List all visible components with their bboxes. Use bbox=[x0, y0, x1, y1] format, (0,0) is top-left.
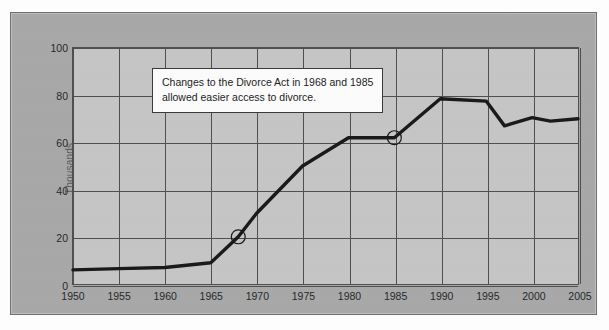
x-tick-label: 1995 bbox=[476, 290, 499, 302]
x-tick-label: 1955 bbox=[107, 290, 130, 302]
x-tick-label: 1990 bbox=[430, 290, 453, 302]
divorce-act-annotation: Changes to the Divorce Act in 1968 and 1… bbox=[152, 68, 383, 113]
x-tick-label: 1975 bbox=[292, 290, 315, 302]
chart-screenshot: Thousands 020406080100 19501955196019651… bbox=[0, 0, 609, 330]
chart-panel: Thousands 020406080100 19501955196019651… bbox=[10, 12, 597, 315]
annotation-line-1: Changes to the Divorce Act in 1968 and 1… bbox=[162, 75, 373, 90]
x-tick-label: 1970 bbox=[246, 290, 269, 302]
y-tick-label: 60 bbox=[56, 137, 68, 149]
x-tick-label: 2000 bbox=[522, 290, 545, 302]
gridline-vertical bbox=[580, 48, 581, 284]
y-tick-label: 80 bbox=[56, 90, 68, 102]
x-tick-label: 1985 bbox=[384, 290, 407, 302]
x-tick-label: 1965 bbox=[200, 290, 223, 302]
y-tick-label: 40 bbox=[56, 185, 68, 197]
x-tick-label: 1960 bbox=[153, 290, 176, 302]
x-tick-label: 2005 bbox=[568, 290, 591, 302]
x-tick-label: 1980 bbox=[338, 290, 361, 302]
gridline-horizontal bbox=[73, 286, 578, 287]
annotation-line-2: allowed easier access to divorce. bbox=[162, 90, 373, 105]
y-tick-label: 20 bbox=[56, 232, 68, 244]
x-tick-label: 1950 bbox=[61, 290, 84, 302]
y-tick-label: 100 bbox=[50, 42, 68, 54]
series-line bbox=[73, 99, 578, 270]
plot-area: 020406080100 195019551960196519701975198… bbox=[72, 47, 579, 285]
